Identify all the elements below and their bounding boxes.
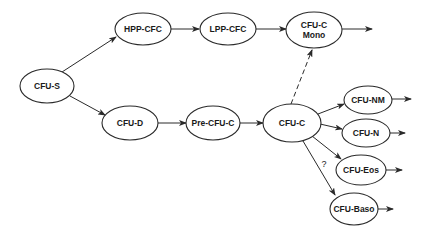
arrow-cfu-s-to-hpp-cfc xyxy=(62,37,116,72)
node-label: CFU-N xyxy=(353,128,379,138)
node-label: CFU-C xyxy=(301,20,327,30)
node-hpp-cfc: HPP-CFC xyxy=(115,13,171,45)
node-cfu-eos: CFU-Eos xyxy=(336,155,386,185)
node-cfu-n: CFU-N xyxy=(342,119,390,147)
arrow-cfu-c-to-cfu-c-mono xyxy=(291,50,312,104)
node-cfu-c: CFU-C xyxy=(263,104,321,142)
arrow-cfu-c-to-cfu-baso xyxy=(303,141,335,195)
node-cfu-c-mono: CFU-CMono xyxy=(286,12,342,48)
node-label: CFU-Eos xyxy=(343,165,379,175)
uncertain-annotation: ? xyxy=(321,159,326,169)
node-label: CFU-C xyxy=(279,118,305,128)
node-pre-cfu-c: Pre-CFU-C xyxy=(186,106,240,140)
arrow-cfu-c-to-cfu-nm xyxy=(318,104,344,114)
node-cfu-s: CFU-S xyxy=(20,69,74,103)
arrow-cfu-c-to-cfu-eos xyxy=(312,136,341,159)
node-label: CFU-NM xyxy=(351,95,385,105)
hematopoiesis-diagram: CFU-SHPP-CFCLPP-CFCCFU-CMonoCFU-DPre-CFU… xyxy=(0,0,426,232)
arrow-cfu-c-to-cfu-n xyxy=(320,124,342,129)
node-label: Mono xyxy=(303,30,326,40)
annotations-layer: ? xyxy=(321,159,326,169)
node-label: LPP-CFC xyxy=(210,24,247,34)
node-label: CFU-S xyxy=(34,81,60,91)
node-lpp-cfc: LPP-CFC xyxy=(200,13,256,45)
nodes-layer: CFU-SHPP-CFCLPP-CFCCFU-CMonoCFU-DPre-CFU… xyxy=(20,12,392,225)
node-label: HPP-CFC xyxy=(124,24,162,34)
node-label: Pre-CFU-C xyxy=(192,118,235,128)
node-label: CFU-D xyxy=(117,118,143,128)
node-cfu-nm: CFU-NM xyxy=(344,86,392,114)
arrow-cfu-s-to-cfu-d xyxy=(70,96,105,115)
node-label: CFU-Baso xyxy=(333,204,374,214)
node-cfu-d: CFU-D xyxy=(102,106,158,140)
node-cfu-baso: CFU-Baso xyxy=(330,193,378,225)
